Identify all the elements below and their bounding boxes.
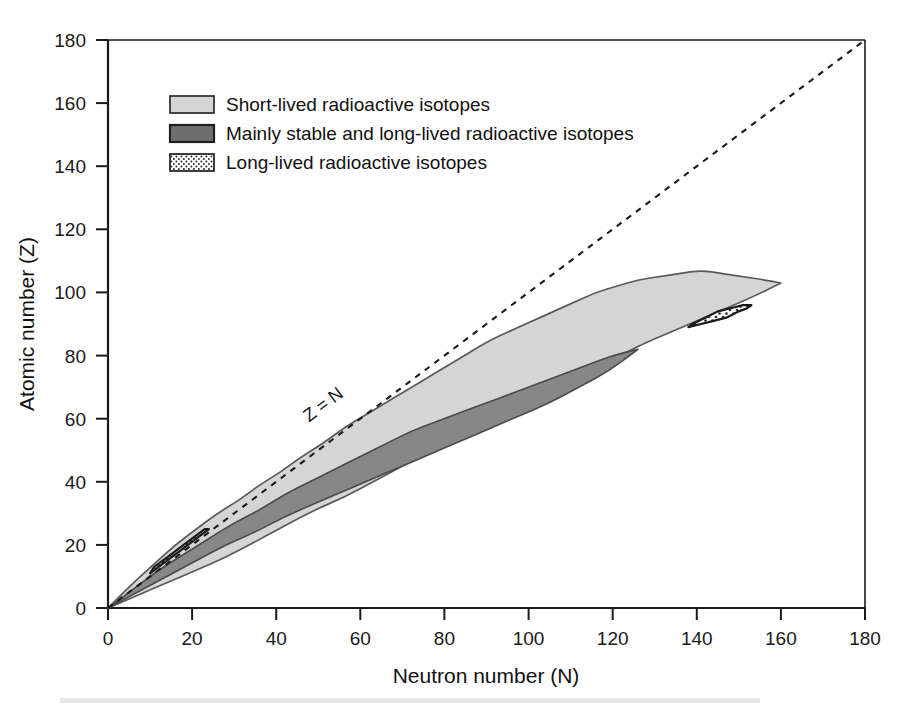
- x-tick-label: 160: [765, 628, 797, 649]
- x-tick-label: 100: [513, 628, 545, 649]
- legend-swatch-long-lived: [170, 154, 214, 171]
- legend-label-short-lived: Short-lived radioactive isotopes: [226, 94, 490, 115]
- legend-label-mainly-stable: Mainly stable and long-lived radioactive…: [226, 123, 634, 144]
- y-tick-label: 20: [65, 535, 86, 556]
- legend-swatch-short-lived: [170, 96, 214, 113]
- y-tick-label: 40: [65, 472, 86, 493]
- x-tick-label: 140: [681, 628, 713, 649]
- y-tick-label: 80: [65, 346, 86, 367]
- legend-item-mainly-stable: Mainly stable and long-lived radioactive…: [170, 123, 634, 144]
- x-tick-label: 40: [266, 628, 287, 649]
- y-tick-label: 60: [65, 409, 86, 430]
- x-tick-label: 80: [434, 628, 455, 649]
- x-axis-title: Neutron number (N): [393, 664, 580, 687]
- x-tick-label: 0: [103, 628, 114, 649]
- x-tick-label: 120: [597, 628, 629, 649]
- x-tick-label: 60: [350, 628, 371, 649]
- caption-remnant: [60, 698, 760, 703]
- y-tick-label: 0: [75, 598, 86, 619]
- x-tick-label: 180: [849, 628, 881, 649]
- y-tick-label: 100: [54, 282, 86, 303]
- y-axis-title: Atomic number (Z): [15, 237, 38, 411]
- x-tick-label: 20: [182, 628, 203, 649]
- legend-label-long-lived: Long-lived radioactive isotopes: [226, 152, 487, 173]
- y-tick-label: 140: [54, 156, 86, 177]
- y-tick-label: 120: [54, 219, 86, 240]
- y-tick-label: 160: [54, 93, 86, 114]
- nuclide-chart-figure: 0 20 40 60 80 100 120 140 160 180 0 20 4…: [0, 0, 903, 704]
- y-tick-label: 180: [54, 30, 86, 51]
- chart-canvas: 0 20 40 60 80 100 120 140 160 180 0 20 4…: [0, 0, 903, 704]
- legend-swatch-mainly-stable: [170, 125, 214, 142]
